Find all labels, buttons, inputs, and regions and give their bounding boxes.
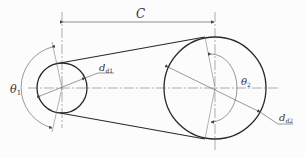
large-tangent-radius-line [205,37,215,88]
small-diameter-leader [85,73,98,78]
diameter-large-label: dd2 [279,112,293,124]
diagram-canvas: C θ1 dd1 θ2 dd2 [0,0,305,158]
large-tangent-radius-line [205,88,215,139]
wrap-angle-small-label: θ1 [10,83,21,97]
large-diameter-leader [260,112,278,124]
belt-lower [60,113,205,139]
belt-drive-diagram: C θ1 dd1 θ2 dd2 [0,0,305,158]
large-diameter-line [168,67,260,112]
small-diameter-line [40,78,85,96]
small-tangent-radius-line [52,88,62,132]
wrap-angle-large-label: θ2 [241,76,251,88]
belt-upper [60,37,205,63]
center-distance-label: C [136,7,145,21]
diameter-small-label: dd1 [99,62,113,74]
